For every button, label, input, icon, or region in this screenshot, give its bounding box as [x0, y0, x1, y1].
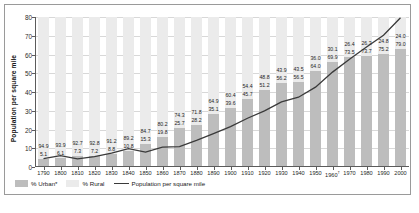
x-axis-tick-mark: [248, 167, 249, 170]
x-axis-tick-label: 1870: [173, 170, 185, 176]
y-axis-tick-mark: [32, 167, 35, 168]
x-axis-tick-label: 1890: [207, 170, 219, 176]
x-axis-tick-label: 1930: [275, 170, 287, 176]
x-axis-tick-label: 1900: [224, 170, 236, 176]
x-axis-tick-label: 1970: [343, 170, 355, 176]
x-axis-tick-label: 1830: [105, 170, 117, 176]
x-axis-tick-mark: [350, 167, 351, 170]
legend-item-rural: % Rural: [66, 180, 104, 187]
x-axis-tick-mark: [146, 167, 147, 170]
x-axis-tick-label: 1790: [37, 170, 49, 176]
legend-item-density: Population per square mile: [114, 180, 206, 187]
x-axis-tick-mark: [163, 167, 164, 170]
x-axis-tick-mark: [316, 167, 317, 170]
x-axis-tick-mark: [367, 167, 368, 170]
chart-legend: % Urban* % Rural Population per square m…: [15, 178, 205, 188]
chart-figure: Population per square mile 5.194.96.193.…: [0, 0, 419, 213]
x-axis-tick-mark: [78, 167, 79, 170]
legend-label-urban: % Urban*: [31, 180, 57, 187]
y-axis-tick-label: 30: [25, 107, 32, 114]
x-axis-tick-mark: [95, 167, 96, 170]
legend-label-density: Population per square mile: [132, 180, 206, 187]
x-axis-tick-mark: [231, 167, 232, 170]
y-axis-tick-label: 50: [25, 70, 32, 77]
x-axis-tick-mark: [299, 167, 300, 170]
y-axis-tick-label: 80: [25, 14, 32, 21]
x-axis-tick-mark: [384, 167, 385, 170]
y-axis-tick-label: 40: [25, 89, 32, 96]
x-axis-tick-label: 1800: [54, 170, 66, 176]
x-axis-tick-label: 2000: [394, 170, 406, 176]
urban-swatch-icon: [15, 180, 28, 187]
x-axis-tick-label: 1820: [88, 170, 100, 176]
x-axis-tick-label: 1990: [377, 170, 389, 176]
x-axis-line: [35, 166, 409, 167]
x-axis-tick-mark: [61, 167, 62, 170]
x-axis-tick-label: 1840: [122, 170, 134, 176]
x-axis-tick-mark: [333, 167, 334, 170]
legend-item-urban: % Urban*: [15, 180, 57, 187]
plot-area: 5.194.96.193.97.392.77.292.88.891.210.88…: [35, 17, 409, 167]
axis-ticks-layer: 0102030405060708017901800181018201830184…: [35, 17, 409, 167]
chart-panel: Population per square mile 5.194.96.193.…: [4, 4, 411, 195]
x-axis-tick-mark: [129, 167, 130, 170]
x-axis-tick-mark: [197, 167, 198, 170]
x-axis-tick-mark: [214, 167, 215, 170]
y-axis-title: Population per square mile: [7, 31, 19, 171]
x-axis-tick-mark: [265, 167, 266, 170]
y-axis-tick-label: 10: [25, 145, 32, 152]
x-axis-tick-mark: [180, 167, 181, 170]
figure-caption: [4, 205, 415, 213]
x-axis-tick-label: 1960†: [325, 170, 340, 178]
rural-swatch-icon: [66, 180, 79, 187]
x-axis-tick-label: 1920: [258, 170, 270, 176]
x-axis-tick-label: 1980: [360, 170, 372, 176]
y-axis-title-text: Population per square mile: [10, 29, 17, 169]
x-axis-tick-label: 1860: [156, 170, 168, 176]
x-axis-tick-label: 1950: [309, 170, 321, 176]
y-axis-tick-label: 70: [25, 32, 32, 39]
x-axis-tick-label: 1940: [292, 170, 304, 176]
x-axis-tick-mark: [282, 167, 283, 170]
y-axis-line: [35, 17, 36, 167]
x-axis-tick-label: 1810: [71, 170, 83, 176]
line-swatch-icon: [114, 183, 129, 184]
y-axis-tick-label: 20: [25, 126, 32, 133]
legend-label-rural: % Rural: [82, 180, 104, 187]
x-axis-tick-mark: [44, 167, 45, 170]
x-axis-tick-mark: [401, 167, 402, 170]
x-axis-tick-mark: [112, 167, 113, 170]
x-axis-tick-label: 1850: [139, 170, 151, 176]
x-axis-tick-label: 1910: [241, 170, 253, 176]
x-axis-tick-label: 1880: [190, 170, 202, 176]
y-axis-tick-label: 60: [25, 51, 32, 58]
